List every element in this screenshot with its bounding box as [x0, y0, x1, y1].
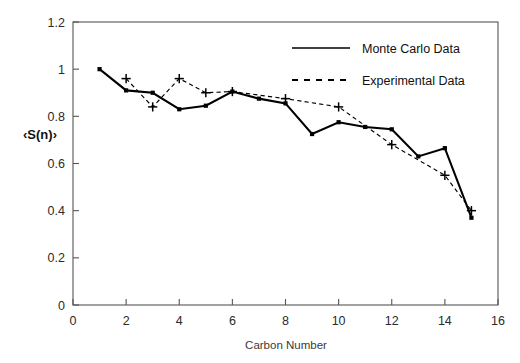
x-axis-title: Carbon Number: [245, 339, 327, 351]
x-tick-label: 4: [176, 314, 183, 328]
x-tick-label: 14: [438, 314, 452, 328]
x-tick-label: 16: [491, 314, 505, 328]
y-tick-label: 1: [58, 63, 65, 77]
data-point-marker: [257, 97, 261, 101]
data-point-marker: [416, 154, 420, 158]
data-point-marker: [151, 91, 155, 95]
y-tick-label: 1.2: [48, 16, 65, 30]
x-tick-label: 0: [70, 314, 77, 328]
y-tick-label: 0: [58, 299, 65, 313]
x-tick-label: 10: [332, 314, 346, 328]
x-tick-label: 8: [282, 314, 289, 328]
data-point-marker: [204, 104, 208, 108]
data-point-marker: [310, 132, 314, 136]
x-tick-label: 12: [385, 314, 399, 328]
legend-label: Experimental Data: [362, 74, 465, 88]
data-point-marker: [97, 67, 101, 71]
x-tick-label: 6: [229, 314, 236, 328]
data-point-marker: [124, 88, 128, 92]
y-tick-label: 0.8: [48, 110, 65, 124]
data-point-marker: [469, 216, 473, 220]
data-point-marker: [390, 127, 394, 131]
data-point-marker: [177, 107, 181, 111]
data-point-marker: [337, 120, 341, 124]
x-tick-label: 2: [123, 314, 130, 328]
y-tick-label: 0.6: [48, 157, 65, 171]
legend-label: Monte Carlo Data: [362, 42, 460, 56]
y-axis-title: ‹S(n)›: [23, 127, 57, 142]
chart-figure: 00.20.40.60.811.2 0246810121416 ‹S(n)› C…: [0, 0, 520, 363]
y-tick-label: 0.4: [48, 204, 65, 218]
data-point-marker: [443, 146, 447, 150]
y-tick-label: 0.2: [48, 251, 65, 265]
